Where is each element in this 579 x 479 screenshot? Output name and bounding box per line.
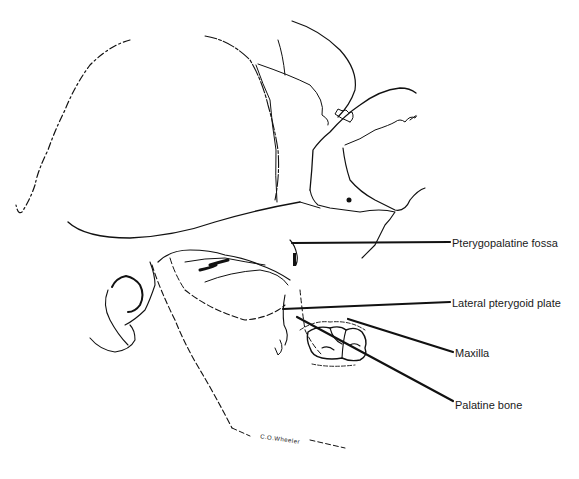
label-palatine-bone: Palatine bone xyxy=(455,399,522,411)
label-maxilla: Maxilla xyxy=(455,347,489,359)
leader-lateral-pterygoid-plate xyxy=(283,302,450,309)
anatomy-diagram: Pterygopalatine fossa Lateral pterygoid … xyxy=(0,0,579,479)
leader-pterygopalatine-fossa xyxy=(292,242,450,243)
label-lateral-pterygoid-plate: Lateral pterygoid plate xyxy=(452,297,561,309)
foramen-dot xyxy=(347,198,352,203)
cranium-outline xyxy=(16,40,130,213)
leader-palatine-bone xyxy=(297,317,453,401)
label-pterygopalatine-fossa: Pterygopalatine fossa xyxy=(452,237,558,249)
